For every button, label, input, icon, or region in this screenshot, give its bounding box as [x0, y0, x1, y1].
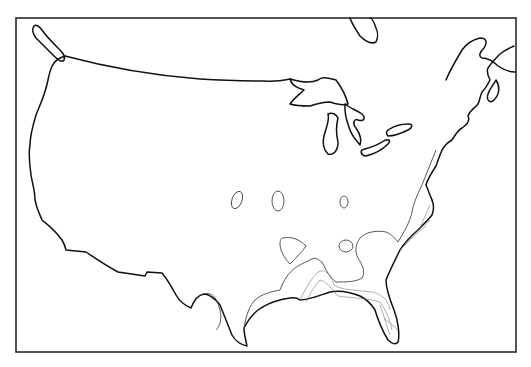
james-bay: [350, 18, 378, 43]
contour-island-4: [339, 240, 353, 252]
contour-island-3: [340, 196, 348, 208]
vancouver-island: [33, 25, 65, 61]
st-lawrence-coast: [446, 38, 515, 80]
nova-scotia: [487, 80, 498, 102]
map-frame: [16, 18, 516, 352]
lake-ontario: [387, 124, 412, 136]
lake-superior: [290, 78, 348, 106]
atlantic-coast: [426, 46, 514, 200]
fall-line-contour: [204, 150, 436, 330]
contour-island-2: [272, 191, 284, 211]
lake-michigan: [323, 113, 338, 154]
lake-erie: [361, 140, 389, 156]
lake-huron: [345, 104, 364, 145]
contour-inner-4: [400, 220, 430, 250]
contour-inner-1: [300, 271, 390, 310]
contour-ozarks: [280, 237, 306, 264]
us-outline-map: [0, 0, 531, 367]
contour-island-1: [229, 190, 245, 210]
